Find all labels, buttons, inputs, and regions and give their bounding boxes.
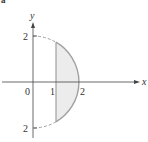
x-axis-label: x [141,76,147,87]
x-axis-arrow-icon [134,80,140,84]
y-tick-label-bottom: 2 [23,123,28,134]
x-tick-label-1: 1 [50,86,55,97]
dashed-arc-top [33,36,56,42]
y-axis-arrow-icon [31,22,35,28]
dashed-arc-bottom [33,122,56,128]
region-diagram: a x y 2 2 0 1 2 [0,0,148,142]
y-tick-label-top: 2 [23,31,28,42]
origin-label: 0 [25,86,30,97]
x-tick-label-2: 2 [80,86,85,97]
y-axis-label: y [29,10,35,21]
corner-label: a [1,0,6,5]
